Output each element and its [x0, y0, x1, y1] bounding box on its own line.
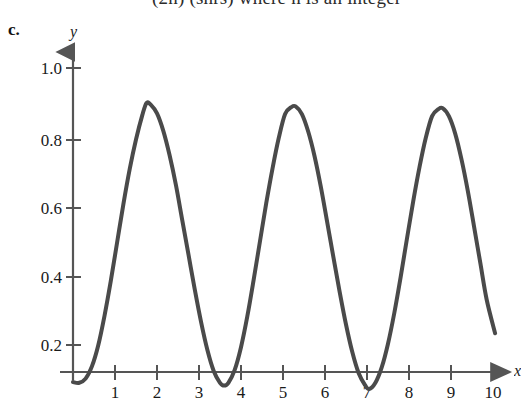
x-tick-label: 9	[447, 383, 456, 402]
x-tick-label: 8	[405, 383, 414, 402]
x-tick-label: 1	[111, 383, 120, 402]
x-tick-label: 10	[485, 383, 502, 402]
graph-plot: 1.0 0.8 0.6 0.4 0.2 1 2 3 4 5 6 7 8 9 10	[0, 0, 521, 409]
y-tick-label: 0.8	[41, 131, 62, 150]
y-axis-tick-labels: 1.0 0.8 0.6 0.4 0.2	[41, 59, 63, 355]
x-tick-label: 5	[279, 383, 288, 402]
y-tick-label: 0.2	[41, 336, 62, 355]
x-axis-tick-labels: 1 2 3 4 5 6 7 8 9 10	[111, 383, 502, 402]
data-curve	[73, 102, 495, 389]
x-tick-label: 4	[237, 383, 246, 402]
x-tick-label: 2	[153, 383, 162, 402]
x-tick-label: 3	[195, 383, 204, 402]
y-tick-label: 0.6	[41, 199, 62, 218]
y-tick-label: 0.4	[41, 268, 63, 287]
x-tick-label: 6	[321, 383, 330, 402]
y-tick-label: 1.0	[41, 59, 62, 78]
